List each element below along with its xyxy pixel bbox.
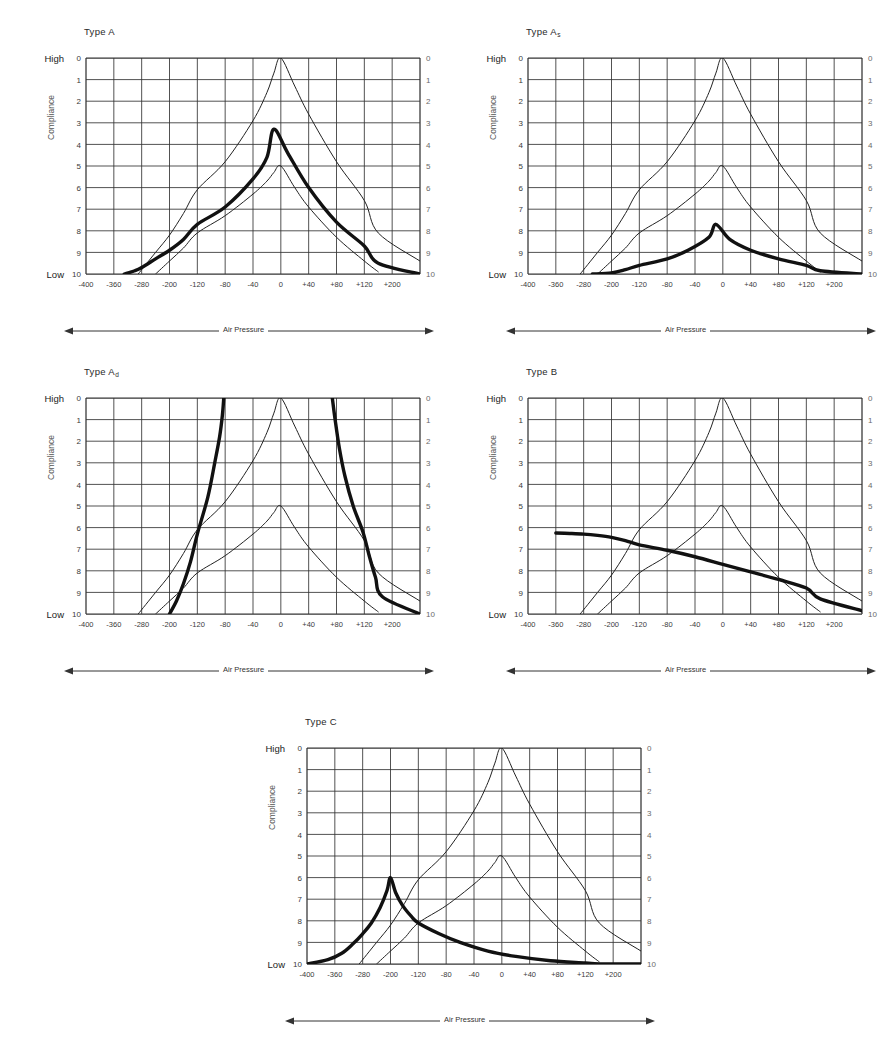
y-tick-label-left: 2 bbox=[77, 97, 82, 106]
x-axis-title: Air Pressure bbox=[219, 325, 268, 334]
x-tick-label: +200 bbox=[384, 280, 401, 289]
y-tick-label-right: 10 bbox=[647, 960, 656, 969]
y-tick-label-left: 10 bbox=[514, 610, 523, 619]
x-tick-label: -120 bbox=[190, 620, 205, 629]
y-tick-label-right: 4 bbox=[868, 141, 873, 150]
grid-lines bbox=[86, 58, 420, 274]
y-tick-label-left: 8 bbox=[519, 567, 524, 576]
x-axis-title: Air Pressure bbox=[661, 325, 710, 334]
y-tick-label-right: 2 bbox=[868, 97, 873, 106]
y-tick-label-right: 2 bbox=[426, 97, 431, 106]
y-tick-label-left: 3 bbox=[519, 119, 524, 128]
y-tick-label-left: 7 bbox=[298, 895, 303, 904]
y-axis-high-label: High bbox=[44, 53, 64, 64]
panel-title-text: Type B bbox=[526, 366, 557, 377]
arrow-head-right bbox=[425, 328, 434, 335]
y-tick-label-right: 6 bbox=[426, 184, 431, 193]
y-tick-label-right: 6 bbox=[647, 874, 652, 883]
y-tick-label-right: 8 bbox=[647, 917, 652, 926]
y-tick-label-left: 9 bbox=[519, 249, 524, 258]
y-axis-low-label: Low bbox=[268, 959, 286, 970]
x-tick-label: 0 bbox=[721, 620, 725, 629]
y-tick-label-right: 7 bbox=[426, 545, 431, 554]
x-tick-label: +120 bbox=[577, 970, 594, 979]
y-tick-label-right: 0 bbox=[426, 394, 431, 403]
y-tick-label-left: 9 bbox=[298, 939, 303, 948]
y-tick-label-left: 7 bbox=[519, 205, 524, 214]
y-tick-label-left: 10 bbox=[72, 610, 81, 619]
x-tick-label: -400 bbox=[520, 620, 535, 629]
x-tick-label: +80 bbox=[330, 280, 343, 289]
plot-area: 001122334455667788991010HighLow-400-360-… bbox=[20, 48, 440, 318]
x-tick-label: 0 bbox=[279, 280, 283, 289]
y-tick-label-right: 5 bbox=[426, 502, 431, 511]
y-tick-label-left: 1 bbox=[298, 766, 303, 775]
y-tick-label-right: 1 bbox=[647, 766, 652, 775]
grid-lines bbox=[307, 748, 641, 964]
y-tick-label-right: 5 bbox=[647, 852, 652, 861]
x-tick-label: +80 bbox=[551, 970, 564, 979]
y-tick-label-right: 3 bbox=[868, 459, 873, 468]
x-axis-title: Air Pressure bbox=[440, 1015, 489, 1024]
x-tick-label: +40 bbox=[523, 970, 536, 979]
y-tick-label-right: 0 bbox=[868, 54, 873, 63]
x-tick-label: +200 bbox=[826, 620, 843, 629]
panel-title-text: Type A bbox=[84, 26, 115, 37]
panel-title: Type A bbox=[84, 26, 115, 37]
y-tick-label-right: 8 bbox=[868, 227, 873, 236]
y-axis-low-label: Low bbox=[489, 609, 507, 620]
y-tick-label-left: 9 bbox=[77, 249, 82, 258]
y-tick-label-left: 9 bbox=[519, 589, 524, 598]
x-tick-label: -80 bbox=[662, 280, 673, 289]
y-tick-label-right: 4 bbox=[426, 481, 431, 490]
grid-lines bbox=[86, 398, 420, 614]
grid-lines bbox=[528, 398, 862, 614]
reference-curve bbox=[377, 855, 600, 964]
x-tick-label: -80 bbox=[220, 280, 231, 289]
y-tick-label-right: 10 bbox=[868, 270, 877, 279]
y-tick-label-right: 3 bbox=[426, 459, 431, 468]
y-tick-label-right: 9 bbox=[426, 249, 431, 258]
y-tick-label-left: 7 bbox=[77, 205, 82, 214]
y-tick-label-right: 1 bbox=[426, 76, 431, 85]
x-axis-tick-labels: -400-360-280-200-120-80-400+40+80+120+20… bbox=[520, 620, 842, 629]
y-tick-label-left: 3 bbox=[77, 459, 82, 468]
y-tick-label-left: 4 bbox=[519, 141, 524, 150]
y-tick-label-right: 0 bbox=[426, 54, 431, 63]
y-tick-label-left: 7 bbox=[77, 545, 82, 554]
x-tick-label: 0 bbox=[279, 620, 283, 629]
plot-area: 001122334455667788991010HighLow-400-360-… bbox=[462, 388, 882, 658]
x-tick-label: -120 bbox=[411, 970, 426, 979]
panel-title-subscript: d bbox=[115, 371, 119, 378]
y-tick-label-right: 3 bbox=[647, 809, 652, 818]
x-tick-label: +80 bbox=[772, 620, 785, 629]
y-tick-label-left: 2 bbox=[519, 437, 524, 446]
y-tick-label-right: 1 bbox=[868, 76, 873, 85]
y-tick-label-left: 8 bbox=[77, 227, 82, 236]
arrow-head-right bbox=[867, 328, 876, 335]
x-tick-label: +120 bbox=[798, 280, 815, 289]
y-tick-label-left: 5 bbox=[77, 502, 82, 511]
chart-svg: 001122334455667788991010HighLow-400-360-… bbox=[20, 48, 440, 318]
y-tick-label-right: 2 bbox=[647, 787, 652, 796]
plot-area: 001122334455667788991010HighLow-400-360-… bbox=[20, 388, 440, 658]
x-tick-label: -40 bbox=[690, 280, 701, 289]
panel-title: Type As bbox=[526, 26, 560, 37]
x-tick-label: +40 bbox=[744, 280, 757, 289]
x-tick-label: -400 bbox=[78, 620, 93, 629]
x-tick-label: 0 bbox=[500, 970, 504, 979]
y-tick-label-right: 2 bbox=[868, 437, 873, 446]
x-tick-label: -200 bbox=[162, 620, 177, 629]
x-tick-label: +120 bbox=[356, 620, 373, 629]
panel-title: Type B bbox=[526, 366, 557, 377]
x-tick-label: +80 bbox=[772, 280, 785, 289]
y-tick-label-left: 7 bbox=[519, 545, 524, 554]
y-tick-label-left: 6 bbox=[519, 524, 524, 533]
x-tick-label: -280 bbox=[134, 620, 149, 629]
y-tick-label-left: 1 bbox=[77, 416, 82, 425]
y-tick-label-left: 4 bbox=[519, 481, 524, 490]
x-tick-label: -120 bbox=[190, 280, 205, 289]
y-tick-label-right: 10 bbox=[426, 270, 435, 279]
y-tick-label-right: 8 bbox=[426, 227, 431, 236]
chart-svg: 001122334455667788991010HighLow-400-360-… bbox=[462, 388, 882, 658]
